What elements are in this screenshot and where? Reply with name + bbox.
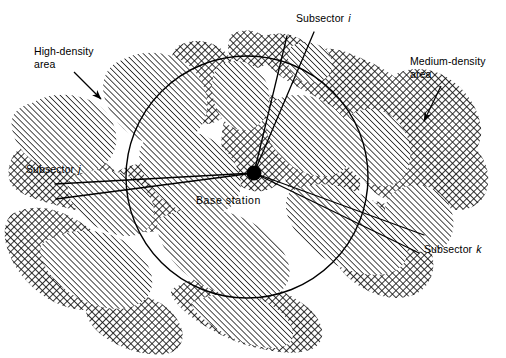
high-density-area-label-line1: High-density <box>34 45 94 58</box>
high-density-callout-arrow <box>74 72 101 99</box>
subsector-j-label-symbol: j <box>74 163 80 175</box>
medium-density-area-label-line1: Medium-density <box>410 55 486 68</box>
subsector-i-label-symbol: i <box>344 12 350 24</box>
high-density-area-label-line2: area <box>34 58 94 71</box>
high-density-region-center-n <box>212 61 270 130</box>
subsector-k-label-text: Subsector <box>424 243 472 255</box>
high-density-area-label: High-density area <box>34 45 94 71</box>
subsector-k-label: Subsectork <box>424 243 482 256</box>
high-density-region-s-center <box>157 209 290 299</box>
medium-density-area-label: Medium-density area <box>410 55 486 81</box>
diagram-canvas: High-density area Medium-density area Su… <box>0 0 506 358</box>
subsector-i-label-text: Subsector <box>296 12 344 24</box>
subsector-j-label: Subsectorj <box>26 163 81 176</box>
subsector-k-label-symbol: k <box>472 243 481 255</box>
base-station-label: Base station <box>196 194 261 207</box>
medium-density-area-label-line2: area <box>410 68 486 81</box>
base-station-marker <box>247 166 262 181</box>
subsector-i-label: Subsectori <box>296 12 351 25</box>
subsector-j-label-text: Subsector <box>26 163 74 175</box>
